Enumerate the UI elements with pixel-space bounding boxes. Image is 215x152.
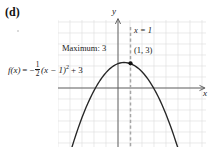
y-axis-label: y bbox=[112, 7, 116, 16]
figure-container: (d) bbox=[0, 0, 215, 152]
function-equation-label: f(x) = −12(x − 1)2 + 3 bbox=[8, 61, 83, 77]
grid-lines bbox=[58, 20, 206, 147]
equation-binomial: (x − 1) bbox=[41, 65, 66, 75]
vertex-point-label: (1, 3) bbox=[134, 46, 152, 55]
equation-fraction: 12 bbox=[35, 61, 41, 77]
axis-of-symmetry-text: x = 1 bbox=[134, 25, 152, 35]
x-axis-label: x bbox=[203, 89, 207, 98]
equation-fraction-denominator: 2 bbox=[35, 70, 41, 78]
equation-minus-sign: − bbox=[29, 65, 34, 75]
maximum-label: Maximum: 3 bbox=[62, 44, 106, 53]
axis-of-symmetry-label: x = 1 bbox=[134, 26, 152, 35]
equation-constant-term: + 3 bbox=[71, 65, 83, 75]
parabola-curve bbox=[72, 63, 178, 148]
vertex-point-marker bbox=[128, 61, 132, 65]
x-axis bbox=[58, 85, 205, 90]
y-axis bbox=[115, 19, 120, 148]
equation-function-name: f(x) bbox=[8, 65, 21, 75]
